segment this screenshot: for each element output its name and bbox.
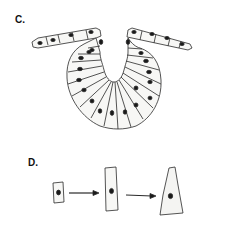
nucleus-icon [132,30,136,33]
nucleus-icon [139,51,143,54]
nucleus-icon [180,42,184,45]
nucleus-icon [126,40,130,45]
nucleus-icon [144,59,149,62]
nucleus-icon [51,38,55,41]
nucleus-icon [134,103,138,107]
nucleus-icon [99,40,103,45]
arrow-right-icon [69,191,99,196]
nucleus-icon [147,70,152,73]
nucleus-icon [98,109,102,113]
cuboidal-cell [53,182,64,203]
panel-c-invagination [32,28,192,129]
nucleus-icon [150,32,154,35]
nucleus-icon [165,36,169,39]
nucleus-icon [148,96,152,100]
nucleus-icon [123,110,127,114]
panel-d-cell-shape-sequence [53,167,183,215]
wedge-cell [160,167,183,215]
nucleus-icon [82,88,86,92]
nucleus-icon [110,111,114,116]
nucleus-icon [168,193,172,198]
nucleus-icon [148,80,152,83]
nucleus-icon [79,56,84,59]
nucleus-icon [134,86,138,90]
nucleus-icon [69,33,73,36]
nucleus-icon [110,188,114,193]
diagram-canvas [0,0,228,228]
nucleus-icon [87,50,91,53]
columnar-cell [105,167,118,211]
nucleus-icon [89,30,93,33]
nucleus-icon [78,67,83,70]
arrow-right-icon [126,194,156,199]
nucleus-icon [77,78,82,81]
nucleus-icon [90,99,94,103]
nucleus-icon [57,190,61,195]
nucleus-icon [38,41,42,44]
invaginated-cup [67,38,161,129]
